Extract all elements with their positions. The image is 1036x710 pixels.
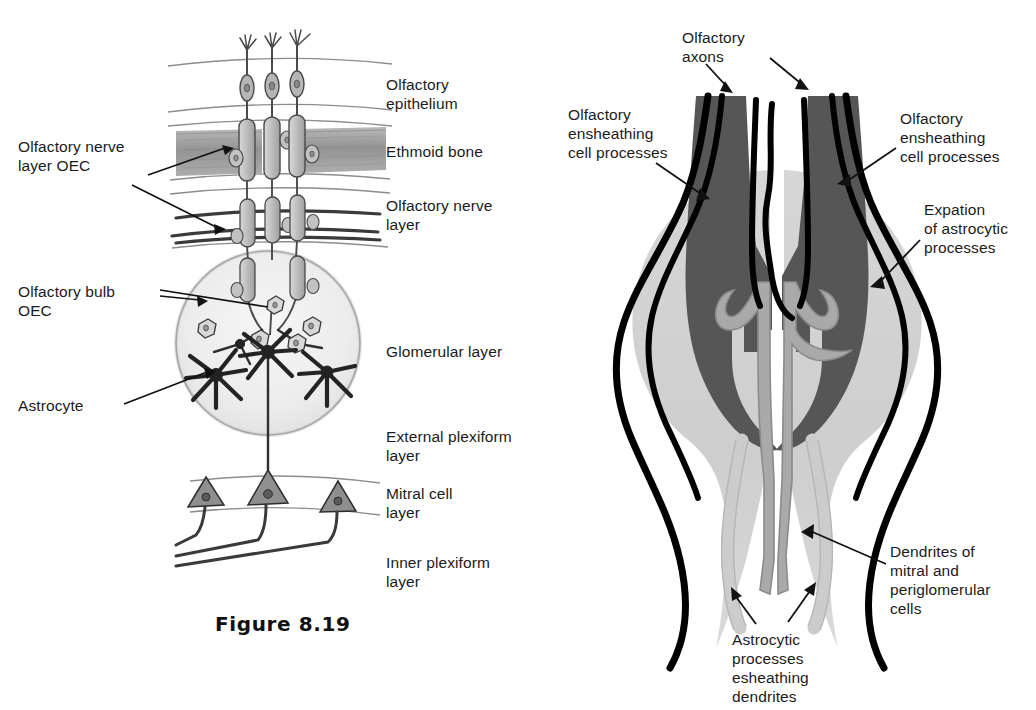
astrocytic-expansion-body: [632, 170, 921, 648]
callout-oec-processes-left: Olfactory ensheathing cell processes: [568, 105, 668, 162]
layer-label-mitral-cell-layer: Mitral cell layer: [386, 484, 453, 522]
callout-oec-processes-right: Olfactory ensheathing cell processes: [900, 109, 1000, 166]
mitral-cells: [176, 470, 356, 566]
callout-olfactory-axons: Olfactory axons: [682, 28, 745, 66]
callout-dendrites-of-mitral-and-periglomerular-cells: Dendrites of mitral and periglomerular c…: [890, 542, 990, 618]
figure-8-19: Olfactory epithelium Ethmoid bone Olfact…: [0, 0, 1036, 710]
callout-olfactory-nerve-layer-oec: Olfactory nerve layer OEC: [18, 137, 125, 175]
layer-label-olfactory-nerve-layer: Olfactory nerve layer: [386, 196, 493, 234]
callout-astrocyte: Astrocyte: [18, 396, 84, 415]
layer-label-external-plexiform-layer: External plexiform layer: [386, 427, 512, 465]
callout-olfactory-bulb-oec: Olfactory bulb OEC: [18, 282, 115, 320]
layer-label-olfactory-epithelium: Olfactory epithelium: [386, 75, 520, 113]
layer-label-ethmoid-bone: Ethmoid bone: [386, 142, 483, 161]
callout-expansion-of-astrocytic-processes: Expation of astrocytic processes: [924, 200, 1008, 257]
layer-label-glomerular-layer: Glomerular layer: [386, 342, 502, 361]
layer-label-inner-plexiform-layer: Inner plexiform layer: [386, 553, 490, 591]
right-panel-glomerulus-ultrastructure: Olfactory axons Olfactory ensheathing ce…: [520, 0, 1036, 710]
callout-astrocytic-processes-ensheathing-dendrites: Astrocytic processes esheathing dendrite…: [732, 630, 809, 706]
figure-caption: Figure 8.19: [215, 612, 350, 636]
left-panel-olfactory-pathway: Olfactory epithelium Ethmoid bone Olfact…: [0, 0, 520, 710]
